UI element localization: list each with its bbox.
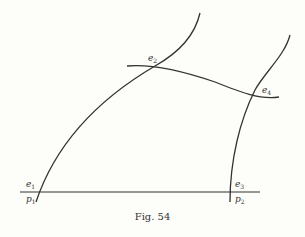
label-p1-sub: 1 (32, 198, 36, 205)
worldline-left (36, 13, 200, 202)
label-e1-sub: 1 (31, 183, 35, 190)
signal-curve (127, 66, 279, 98)
label-e4: e4 (262, 86, 271, 96)
label-p1: p1 (26, 195, 36, 205)
label-p2: p2 (235, 195, 245, 205)
worldline-right (230, 35, 290, 202)
diagram-canvas (0, 0, 305, 237)
label-e2-sub: 2 (153, 57, 157, 64)
label-e2: e2 (148, 54, 157, 64)
label-e1: e1 (26, 180, 35, 190)
label-p2-sub: 2 (241, 198, 245, 205)
label-e3-sub: 3 (240, 183, 244, 190)
label-e3: e3 (235, 180, 244, 190)
label-e4-sub: 4 (267, 89, 271, 96)
figure-caption: Fig. 54 (0, 211, 305, 222)
